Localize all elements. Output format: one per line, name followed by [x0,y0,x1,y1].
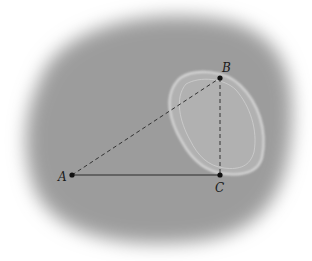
point-c [217,172,222,177]
point-a [69,172,74,177]
label-b: B [222,61,231,75]
label-c: C [215,181,224,195]
point-b [217,75,222,80]
label-a: A [58,170,67,184]
triangle-diagram [0,0,312,261]
diagram-canvas: A B C [0,0,312,261]
